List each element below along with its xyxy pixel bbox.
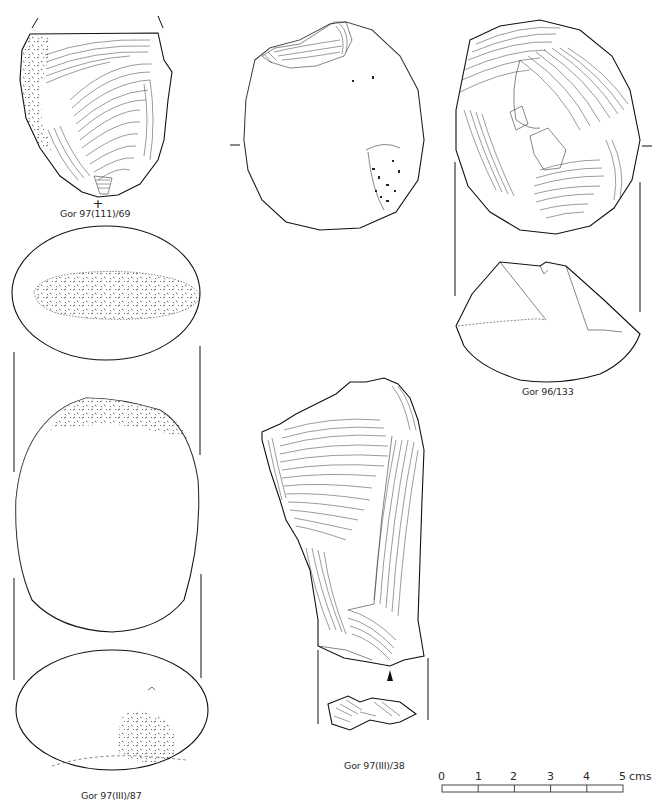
artefact-plate: + [0,0,662,803]
orientation-mark-left [32,18,38,28]
scale-unit-label: cms [629,770,652,783]
specimen-label-gor-97-iii-87: Gor 97(III)/87 [81,790,142,801]
specimen-gor-97-111-69-drawing [20,16,172,197]
specimen-gor-97-iii-87-drawing [12,226,208,770]
flake-outline-large [262,378,424,666]
core-plan-outline [456,20,640,234]
scale-label-3: 3 [547,770,554,783]
percussion-arrow-icon [387,670,393,681]
specimen-gor-96-133-drawing [455,20,652,382]
specimen-label-gor-97-111-69: Gor 97(111)/69 [60,208,130,219]
scale-label-5: 5 [619,770,626,783]
core-profile-outline [456,262,640,382]
orientation-mark-right [158,16,163,28]
specimen-label-gor-97-iii-38: Gor 97(III)/38 [344,760,405,771]
flake-platform-outline [328,696,416,730]
scale-label-4: 4 [583,770,590,783]
scale-label-0: 0 [438,770,445,783]
scale-label-1: 1 [475,770,482,783]
specimen-pebble-top-middle-drawing [230,22,424,230]
specimen-label-gor-96-133: Gor 96/133 [522,386,574,397]
specimen-gor-97-iii-38-drawing [262,378,428,730]
scale-bar-rect [442,785,623,792]
scale-bar [442,785,623,792]
pebble-bottom-view-outline [16,650,208,770]
scale-label-2: 2 [510,770,517,783]
